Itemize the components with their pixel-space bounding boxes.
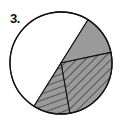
pie-chart xyxy=(0,0,122,125)
